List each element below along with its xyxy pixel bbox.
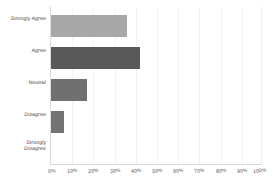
bar-neutral (51, 79, 87, 101)
x-tick-40: 40% (131, 167, 142, 174)
bar-agree (51, 47, 140, 69)
category-label-text: Strongly Agree (10, 15, 46, 21)
x-tick-10: 10% (67, 167, 78, 174)
bar-disagree (51, 111, 64, 133)
category-axis-labels: Strongly Agree Agree Neutral Disagree St… (0, 6, 46, 165)
x-tick-80: 80% (216, 167, 227, 174)
bar-row-disagree (51, 106, 64, 138)
x-tick-90: 90% (237, 167, 248, 174)
x-tick-100: 100% (253, 166, 267, 174)
category-label-agree: Agree (0, 47, 46, 53)
category-label-strongly-agree: Strongly Agree (0, 15, 46, 21)
bar-series (51, 6, 261, 164)
bar-row-strongly-agree (51, 10, 127, 42)
bar-strongly-agree (51, 15, 127, 37)
x-tick-0: 0% (48, 167, 56, 174)
x-tick-60: 60% (173, 167, 184, 174)
category-label-text: Disagree (24, 111, 46, 117)
category-label-text: Neutral (28, 79, 46, 85)
category-label-disagree: Disagree (0, 111, 46, 117)
category-label-text-line2: Disagree (0, 145, 46, 151)
x-tick-70: 70% (194, 167, 205, 174)
bar-chart: Strongly Agree Agree Neutral Disagree St… (0, 0, 275, 191)
x-axis-tick-labels: 0% 10% 20% 30% 40% 50% 60% 70% 80% 90% 1… (50, 168, 262, 184)
category-label-text: Agree (31, 47, 46, 53)
bar-row-neutral (51, 74, 87, 106)
x-tick-50: 50% (152, 167, 163, 174)
x-tick-30: 30% (110, 167, 121, 174)
plot-area (50, 6, 262, 165)
category-label-strongly-disagree: Strongly Disagree (0, 139, 46, 152)
x-tick-20: 20% (88, 167, 99, 174)
bar-row-agree (51, 42, 140, 74)
category-label-neutral: Neutral (0, 79, 46, 85)
